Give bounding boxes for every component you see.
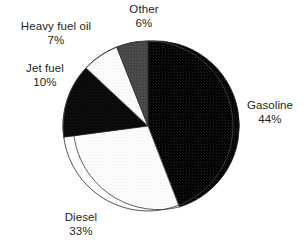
pie-chart: Other 6% Heavy fuel oil 7% Jet fuel 10% … xyxy=(0,0,305,252)
slice-label-other-name: Other xyxy=(112,3,176,17)
slice-label-other: Other 6% xyxy=(112,3,176,30)
slice-label-diesel-value: 33% xyxy=(42,225,120,239)
slice-label-diesel: Diesel 33% xyxy=(42,211,120,238)
slice-label-other-value: 6% xyxy=(112,17,176,31)
slice-label-gasoline: Gasoline 44% xyxy=(237,99,303,126)
slice-label-heavy-fuel-oil-name: Heavy fuel oil xyxy=(4,20,108,34)
slice-label-jet-fuel: Jet fuel 10% xyxy=(4,62,86,89)
slice-label-gasoline-name: Gasoline xyxy=(237,99,303,113)
slice-label-jet-fuel-value: 10% xyxy=(4,76,86,90)
slice-label-heavy-fuel-oil-value: 7% xyxy=(4,34,108,48)
slice-label-heavy-fuel-oil: Heavy fuel oil 7% xyxy=(4,20,108,47)
slice-label-jet-fuel-name: Jet fuel xyxy=(4,62,86,76)
slice-label-diesel-name: Diesel xyxy=(42,211,120,225)
slice-label-gasoline-value: 44% xyxy=(237,113,303,127)
